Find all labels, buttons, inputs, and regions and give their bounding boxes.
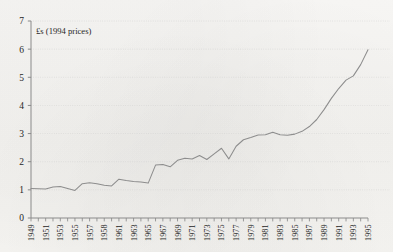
x-tick-label: 1973 — [203, 225, 212, 241]
y-tick-label: 2 — [19, 157, 24, 167]
x-axis — [31, 218, 368, 221]
x-tick-label: 1961 — [115, 225, 124, 241]
y-tick-label: 1 — [19, 185, 24, 195]
x-tick-label: 1953 — [56, 225, 65, 241]
x-tick-label: 1993 — [349, 225, 358, 241]
x-tick-label: 1957 — [86, 225, 95, 241]
gridlines — [31, 21, 390, 190]
x-tick-label: 1955 — [71, 225, 80, 241]
data-series-line — [31, 50, 368, 191]
x-tick-label: 1951 — [42, 225, 51, 241]
y-tick-label: 0 — [19, 213, 24, 223]
x-tick-label: 1991 — [335, 225, 344, 241]
x-tick-label: 1965 — [144, 225, 153, 241]
chart-canvas: 01234567 1949195119531955195719581961196… — [0, 0, 393, 252]
x-tick-label: 1971 — [188, 225, 197, 241]
y-tick-label: 3 — [19, 129, 24, 139]
x-tick-label: 1983 — [276, 225, 285, 241]
x-tick-label: 1958 — [100, 225, 109, 241]
x-tick-label: 1949 — [27, 225, 36, 241]
units-annotation: £s (1994 prices) — [36, 26, 92, 36]
line-chart-figure: 01234567 1949195119531955195719581961196… — [0, 0, 393, 252]
x-tick-label: 1987 — [305, 225, 314, 241]
x-tick-label: 1989 — [320, 225, 329, 241]
x-tick-label: 1967 — [159, 225, 168, 241]
y-tick-label: 4 — [19, 101, 24, 111]
y-tick-label: 7 — [19, 16, 24, 26]
x-tick-label: 1995 — [364, 225, 373, 241]
x-tick-label: 1981 — [261, 225, 270, 241]
x-tick-labels: 1949195119531955195719581961196319651967… — [27, 225, 373, 241]
x-tick-label: 1975 — [217, 225, 226, 241]
x-tick-label: 1979 — [247, 225, 256, 241]
x-tick-label: 1969 — [174, 225, 183, 241]
x-tick-label: 1977 — [232, 225, 241, 241]
x-tick-label: 1985 — [291, 225, 300, 241]
y-tick-label: 6 — [19, 45, 24, 55]
x-tick-label: 1963 — [130, 225, 139, 241]
y-tick-labels: 01234567 — [19, 16, 24, 223]
y-tick-label: 5 — [19, 73, 24, 83]
